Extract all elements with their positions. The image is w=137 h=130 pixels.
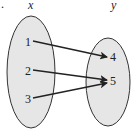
range-oval bbox=[86, 38, 130, 126]
domain-value-2: 2 bbox=[25, 64, 31, 78]
item-marker: . bbox=[1, 0, 4, 11]
mapping-diagram: . x y 1 2 3 4 5 bbox=[0, 0, 137, 130]
range-value-5: 5 bbox=[110, 74, 116, 88]
domain-value-3: 3 bbox=[25, 92, 31, 106]
range-header: y bbox=[110, 0, 117, 12]
domain-header: x bbox=[27, 0, 34, 12]
domain-value-1: 1 bbox=[25, 35, 31, 49]
range-value-4: 4 bbox=[110, 50, 116, 64]
